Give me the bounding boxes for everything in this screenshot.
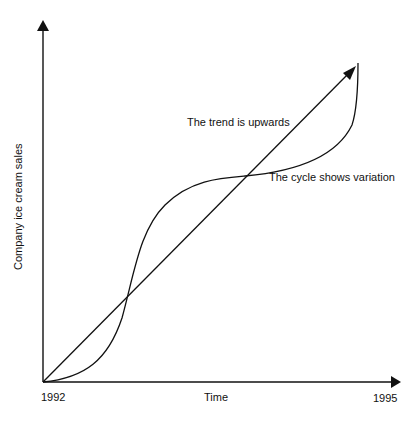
y-axis-arrow-icon <box>37 20 49 31</box>
y-axis-label: Company ice cream sales <box>12 143 24 270</box>
x-axis-arrow-icon <box>391 376 401 388</box>
x-axis-label: Time <box>204 391 228 403</box>
x-tick-end: 1995 <box>373 392 397 404</box>
cycle-annotation: The cycle shows variation <box>269 171 395 183</box>
trend-annotation: The trend is upwards <box>187 116 290 128</box>
chart-canvas <box>0 0 419 423</box>
x-tick-start: 1992 <box>41 391 65 403</box>
